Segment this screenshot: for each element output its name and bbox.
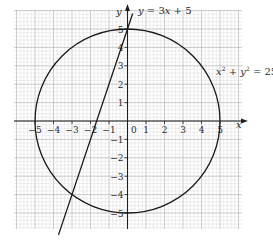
origin-label: 0 bbox=[131, 125, 137, 135]
y-tick-label: −2 bbox=[110, 153, 123, 163]
line-eq-end: + 5 bbox=[170, 5, 191, 16]
y-tick-label: −5 bbox=[110, 209, 124, 219]
line-equation-label: y = 3x + 5 bbox=[137, 5, 192, 16]
y-axis-arrow-icon bbox=[125, 4, 130, 11]
y-tick-label: 2 bbox=[118, 80, 124, 90]
x-tick-label: 4 bbox=[199, 125, 205, 135]
y-tick-label: −3 bbox=[110, 172, 124, 182]
x-axis-label: x bbox=[236, 119, 242, 130]
x-tick-label: 3 bbox=[180, 125, 186, 135]
line-eq-mid: = 3 bbox=[144, 5, 165, 16]
circle-equation-label: x2 + y2 = 25 bbox=[216, 65, 273, 77]
circle-eq-end: = 25 bbox=[250, 66, 273, 77]
y-tick-label: −4 bbox=[110, 190, 124, 200]
y-tick-label: 1 bbox=[118, 98, 124, 108]
y-tick-label: 3 bbox=[118, 61, 124, 71]
x-tick-label: 2 bbox=[162, 125, 168, 135]
graph-canvas: −5−4−3−2−11234554321−1−2−3−4−5 x y 0 y =… bbox=[0, 0, 273, 240]
x-tick-label: −1 bbox=[102, 125, 115, 135]
x-tick-label: −4 bbox=[47, 125, 61, 135]
circle-eq-plus: + bbox=[225, 66, 240, 77]
x-axis-arrow-icon bbox=[241, 119, 248, 124]
x-tick-label: 1 bbox=[143, 125, 149, 135]
y-tick-label: −1 bbox=[110, 135, 123, 145]
x-tick-label: −3 bbox=[65, 125, 79, 135]
y-axis-label: y bbox=[115, 6, 122, 17]
